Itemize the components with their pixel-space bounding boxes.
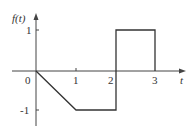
- signal-curve: [36, 30, 155, 110]
- signal-plot: f(t) t 0 1 2 3 1 -1: [0, 0, 193, 136]
- tick-label-x1: 1: [73, 74, 79, 86]
- tick-label-y1: 1: [26, 24, 32, 36]
- tick-label-x2: 2: [108, 74, 114, 86]
- y-axis-label: f(t): [12, 12, 26, 25]
- x-axis-label: t: [180, 74, 184, 86]
- origin-label: 0: [25, 74, 31, 86]
- x-axis-arrow-icon: [179, 69, 186, 74]
- tick-label-yneg1: -1: [20, 104, 29, 116]
- tick-label-x3: 3: [152, 74, 158, 86]
- y-axis-arrow-icon: [34, 13, 39, 20]
